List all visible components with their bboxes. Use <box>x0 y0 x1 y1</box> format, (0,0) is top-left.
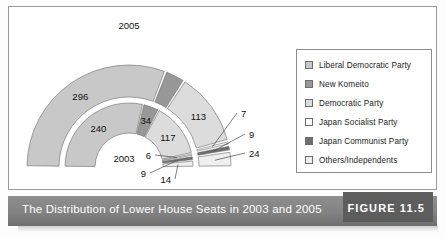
figure-caption: The Distribution of Lower House Seats in… <box>22 203 322 215</box>
callout-value-label: 14 <box>160 174 171 185</box>
outer-year-label: 2005 <box>118 20 139 31</box>
legend-label: New Komeito <box>319 80 369 89</box>
legend-swatch-dpj <box>305 99 313 107</box>
slice-value-label: 34 <box>141 115 152 126</box>
legend-label: Democratic Party <box>319 99 383 108</box>
slice-value-label: 240 <box>91 123 107 134</box>
callout-value-label: 7 <box>241 108 246 119</box>
callout-value-label: 24 <box>249 148 260 159</box>
inner-year-label: 2003 <box>113 153 134 164</box>
figure-container: 29611324034117 79246914 2005 2003 Libera… <box>0 0 446 238</box>
legend-item[interactable]: Liberal Democratic Party <box>305 56 425 74</box>
legend-label: Japan Communist Party <box>319 137 408 146</box>
caption-drop-shadow <box>18 226 438 232</box>
legend-item[interactable]: Democratic Party <box>305 94 425 112</box>
legend-swatch-jsp <box>305 118 313 126</box>
legend-swatch-others <box>305 156 313 164</box>
slice-value-label: 113 <box>191 111 206 122</box>
legend: Liberal Democratic Party New Komeito Dem… <box>296 49 432 173</box>
figure-tag-block: FIGURE 11.5 <box>343 192 433 222</box>
legend-swatch-ldp <box>305 61 313 69</box>
callout-value-label: 9 <box>249 129 254 140</box>
legend-label: Others/Independents <box>319 156 397 165</box>
legend-item[interactable]: Japan Socialist Party <box>305 113 425 131</box>
plot-area-frame: 29611324034117 79246914 2005 2003 Libera… <box>8 6 437 190</box>
slice-value-label: 296 <box>72 91 88 102</box>
callout-value-label: 6 <box>146 150 151 161</box>
callout-value-label: 9 <box>141 168 146 179</box>
caption-bar: The Distribution of Lower House Seats in… <box>8 196 437 226</box>
legend-item[interactable]: New Komeito <box>305 75 425 93</box>
legend-label: Japan Socialist Party <box>319 118 398 127</box>
slice-value-label: 117 <box>160 132 175 143</box>
legend-swatch-jcp <box>305 137 313 145</box>
legend-item[interactable]: Others/Independents <box>305 151 425 169</box>
legend-swatch-komeito <box>305 80 313 88</box>
legend-label: Liberal Democratic Party <box>319 61 411 70</box>
figure-tag-label: FIGURE 11.5 <box>347 202 425 214</box>
legend-item[interactable]: Japan Communist Party <box>305 132 425 150</box>
